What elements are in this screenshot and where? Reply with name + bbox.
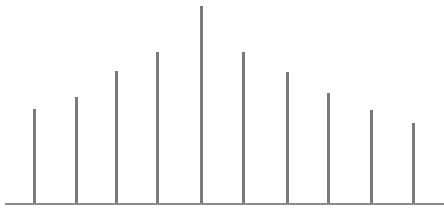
- stem-bar-1: [33, 109, 36, 203]
- stem-bar-6: [242, 52, 245, 203]
- stem-bar-10: [412, 123, 415, 203]
- stem-bar-4: [156, 52, 159, 203]
- stem-bar-3: [115, 71, 118, 203]
- x-axis-baseline: [5, 203, 444, 205]
- stem-chart: [0, 0, 444, 223]
- stem-bar-2: [75, 97, 78, 203]
- stem-bar-7: [286, 72, 289, 203]
- stem-bar-5: [200, 6, 203, 203]
- stem-bar-8: [327, 93, 330, 203]
- stem-bar-9: [370, 110, 373, 203]
